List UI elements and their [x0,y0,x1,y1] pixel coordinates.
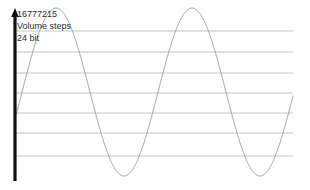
y-axis [11,8,19,181]
chart-plot-area [0,0,310,190]
gridline-group [15,31,293,156]
sine-wave-series [16,8,293,176]
volume-steps-chart: 16777215 Volume steps 24 bit [0,0,310,190]
y-axis-arrowhead [11,8,19,17]
